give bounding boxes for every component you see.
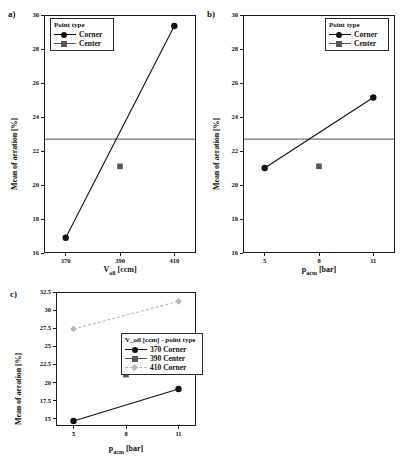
panel-c-x-axis-label: pacm [bar] bbox=[56, 444, 196, 455]
panel-c-legend-item-2: 410 Corner bbox=[125, 363, 199, 372]
panel-c-legend-title: V_oil [ccm] - point type bbox=[125, 336, 199, 344]
panel-c-series-0-point-1 bbox=[175, 386, 181, 392]
panel-c-legend-marker-diamond-icon bbox=[125, 363, 147, 372]
panel-c-legend-marker-circle-icon bbox=[125, 345, 147, 354]
panel-c-series-2-line bbox=[74, 301, 179, 329]
panel-c-legend-marker-square-icon bbox=[125, 354, 147, 363]
panel-c-series-0-line bbox=[74, 389, 179, 421]
panel-c-legend-label-0: 370 Corner bbox=[147, 345, 186, 354]
panel-c-legend-rows: 370 Corner390 Center410 Corner bbox=[125, 345, 199, 372]
panel-c-legend-label-1: 390 Center bbox=[147, 354, 185, 363]
panel-c-x-axis-label-unit: [bar] bbox=[124, 444, 143, 453]
panel-c-series-0-point-0 bbox=[70, 418, 76, 424]
panel-c-legend-label-2: 410 Corner bbox=[147, 363, 186, 372]
panel-c-series-2-point-1 bbox=[175, 298, 182, 305]
panel-c-series-2-point-0 bbox=[70, 326, 77, 333]
panel-c-legend: V_oil [ccm] - point type 370 Corner390 C… bbox=[121, 333, 203, 375]
panel-c-legend-item-1: 390 Center bbox=[125, 354, 199, 363]
panel-c-x-axis-label-sub: acm bbox=[113, 449, 124, 455]
panel-c-legend-item-0: 370 Corner bbox=[125, 345, 199, 354]
panel-c-data-layer bbox=[0, 0, 405, 463]
